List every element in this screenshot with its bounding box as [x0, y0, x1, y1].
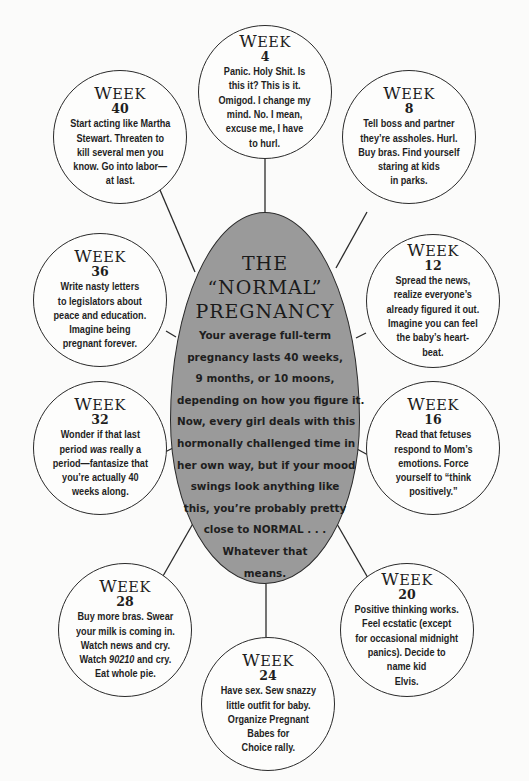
week-label: WEEK: [74, 397, 126, 413]
week-text-line: Choice rally.: [220, 740, 315, 754]
week-number: 28: [116, 595, 133, 609]
week-text-line: little outfit for baby.: [220, 698, 315, 712]
egg-body-text: Your average full-term pregnancy lasts 4…: [177, 325, 353, 584]
week-label: WEEK: [407, 243, 459, 259]
week-number: 12: [424, 259, 441, 273]
week-text-line: know. Go into labor—: [70, 159, 170, 173]
egg-body-line: Whatever that: [177, 541, 353, 563]
week-text-line: Babes for: [220, 726, 315, 740]
week-label: WEEK: [239, 34, 291, 50]
week-text-line: Start acting like Martha: [70, 116, 170, 130]
week-text-line: Eat whole pie.: [76, 666, 175, 680]
week-text: Have sex. Sew snazzy little outfit for b…: [220, 683, 315, 754]
week-text-line: excuse me, I have: [219, 121, 311, 135]
week-text-line: Wonder if that last: [52, 427, 147, 441]
week-text-line: the baby’s heart-: [387, 330, 480, 344]
week-text-line: kill several men you: [70, 145, 170, 159]
week-text-line: to legislators about: [54, 294, 147, 308]
normal-pregnancy-diagram: THE “NORMAL” PREGNANCY Your average full…: [0, 0, 529, 781]
week-12-bubble: WEEK 12 Spread the news, realize everyon…: [366, 234, 500, 368]
egg-body-line: hormonally challenged time in: [177, 433, 353, 455]
week-label: WEEK: [407, 397, 459, 413]
week-text-line: Have sex. Sew snazzy: [220, 683, 315, 697]
egg-body-line: Now, every girl deals with this: [177, 411, 353, 433]
egg-body-line: swings look anything like: [177, 476, 353, 498]
week-number: 36: [91, 265, 108, 279]
week-8-bubble: WEEK 8 Tell boss and partner they’re ass…: [342, 70, 476, 204]
week-32-bubble: WEEK 32 Wonder if that last period was r…: [33, 381, 167, 515]
week-24-bubble: WEEK 24 Have sex. Sew snazzy little outf…: [201, 637, 335, 771]
week-text-line: Imagine you can feel: [387, 316, 480, 330]
week-text-line: weeks along.: [52, 484, 147, 498]
week-number: 32: [91, 413, 108, 427]
egg-title-line: THE: [171, 251, 359, 275]
week-text: Panic. Holy Shit. Is this it? This is it…: [219, 64, 311, 150]
week-text-line: period was really a: [52, 442, 147, 456]
week-text-line: Read that fetuses: [394, 427, 472, 441]
week-text: Start acting like Martha Stewart. Threat…: [70, 116, 170, 187]
week-text-line: Omigod. I change my: [219, 93, 311, 107]
week-text-line: for occasional midnight: [355, 631, 459, 645]
week-label: WEEK: [383, 86, 435, 102]
week-text: Write nasty letters to legislators about…: [54, 279, 147, 350]
week-text-line: staring at kids: [358, 159, 459, 173]
week-text: Read that fetuses respond to Mom’s emoti…: [394, 427, 472, 498]
week-text-line: name kid: [355, 659, 459, 673]
week-text-line: in parks.: [358, 173, 459, 187]
week-36-bubble: WEEK 36 Write nasty letters to legislato…: [33, 233, 167, 367]
week-text-line: Buy bras. Find yourself: [358, 145, 459, 159]
week-text-line: Spread the news,: [387, 273, 480, 287]
egg-body-line: this, you’re probably pretty: [177, 498, 353, 520]
week-text: Buy more bras. Swear your milk is coming…: [76, 609, 175, 680]
week-number: 20: [398, 588, 415, 602]
week-40-bubble: WEEK 40 Start acting like Martha Stewart…: [53, 70, 187, 204]
week-text-line: to hurl.: [219, 136, 311, 150]
week-text-line: Imagine being: [54, 322, 147, 336]
week-text-line: yourself to “think: [394, 470, 472, 484]
week-text-line: panics). Decide to: [355, 645, 459, 659]
week-label: WEEK: [99, 579, 151, 595]
central-egg: THE “NORMAL” PREGNANCY Your average full…: [170, 212, 360, 584]
week-text-line: Elvis.: [355, 674, 459, 688]
egg-title-line: PREGNANCY: [171, 299, 359, 323]
week-label: WEEK: [242, 653, 294, 669]
week-text-line: period—fantasize that: [52, 456, 147, 470]
week-text: Positive thinking works. Feel ecstatic (…: [355, 602, 459, 688]
week-number: 4: [261, 50, 270, 64]
week-text-line: at last.: [70, 173, 170, 187]
week-label: WEEK: [94, 86, 146, 102]
week-text: Spread the news, realize everyone’s alre…: [387, 273, 480, 359]
week-text-line: peace and education.: [54, 308, 147, 322]
week-16-bubble: WEEK 16 Read that fetuses respond to Mom…: [366, 381, 500, 515]
connector-week-12: [356, 333, 366, 338]
egg-body-line: depending on how you figure it.: [177, 390, 353, 412]
week-text-line: Tell boss and partner: [358, 116, 459, 130]
egg-title: THE “NORMAL” PREGNANCY: [171, 251, 359, 323]
egg-body-line: means.: [177, 563, 353, 585]
week-text-line: already figured it out.: [387, 302, 480, 316]
egg-body-line: 9 months, or 10 moons,: [177, 368, 353, 390]
week-number: 24: [259, 669, 276, 683]
week-text-line: emotions. Force: [394, 456, 472, 470]
week-text-line: mind. No. I mean,: [219, 107, 311, 121]
egg-body-line: Your average full-term: [177, 325, 353, 347]
week-label: WEEK: [74, 249, 126, 265]
egg-body-line: close to NORMAL . . .: [177, 519, 353, 541]
week-text-line: beat.: [387, 345, 480, 359]
week-text-line: Organize Pregnant: [220, 712, 315, 726]
week-text-line: pregnant forever.: [54, 336, 147, 350]
week-28-bubble: WEEK 28 Buy more bras. Swear your milk i…: [58, 563, 192, 697]
week-text-line: Stewart. Threaten to: [70, 131, 170, 145]
week-text-line: realize everyone’s: [387, 287, 480, 301]
week-number: 16: [424, 413, 441, 427]
week-text: Wonder if that last period was really a …: [52, 427, 147, 498]
egg-body-line: her own way, but if your mood: [177, 455, 353, 477]
connector-week-36: [166, 331, 176, 337]
week-text-line: Watch news and cry.: [76, 638, 175, 652]
week-number: 40: [111, 102, 128, 116]
week-text-line: Watch 90210 and cry.: [76, 652, 175, 666]
week-text-line: Write nasty letters: [54, 279, 147, 293]
egg-body-line: pregnancy lasts 40 weeks,: [177, 347, 353, 369]
week-text-line: Buy more bras. Swear: [76, 609, 175, 623]
week-text: Tell boss and partner they’re assholes. …: [358, 116, 459, 187]
